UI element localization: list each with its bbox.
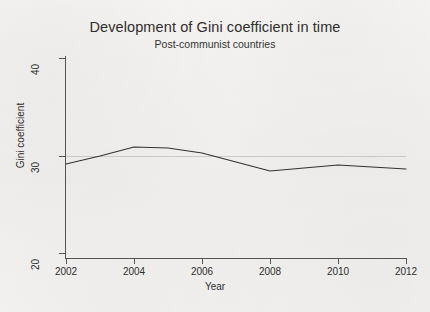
x-tick-label-2010: 2010: [318, 266, 358, 277]
x-tick-mark-2004: [134, 259, 135, 264]
series-gini-coefficient: [66, 58, 406, 258]
y-tick-label-20: 20: [30, 252, 41, 278]
y-tick-label-40: 40: [30, 57, 41, 83]
x-tick-label-2012: 2012: [386, 266, 426, 277]
y-axis-title: Gini coefficient: [15, 56, 26, 216]
gini-coefficient-line-chart: Development of Gini coefficient in time …: [0, 0, 430, 312]
series-line-gini: [66, 147, 406, 171]
chart-subtitle: Post-communist countries: [0, 38, 430, 50]
y-tick-mark-20: [59, 253, 65, 254]
x-tick-label-2006: 2006: [182, 266, 222, 277]
chart-title: Development of Gini coefficient in time: [0, 19, 430, 35]
plot-area: [66, 58, 406, 258]
x-tick-mark-2008: [270, 259, 271, 264]
x-tick-mark-2006: [202, 259, 203, 264]
x-tick-label-2002: 2002: [46, 266, 86, 277]
x-tick-label-2004: 2004: [114, 266, 154, 277]
y-tick-mark-30: [59, 156, 65, 157]
x-tick-mark-2010: [338, 259, 339, 264]
y-tick-mark-40: [59, 58, 65, 59]
x-tick-mark-2012: [406, 259, 407, 264]
x-tick-mark-2002: [66, 259, 67, 264]
y-tick-label-30: 30: [30, 155, 41, 181]
x-axis-title: Year: [0, 281, 430, 292]
x-axis-line: [65, 258, 407, 259]
x-tick-label-2008: 2008: [250, 266, 290, 277]
